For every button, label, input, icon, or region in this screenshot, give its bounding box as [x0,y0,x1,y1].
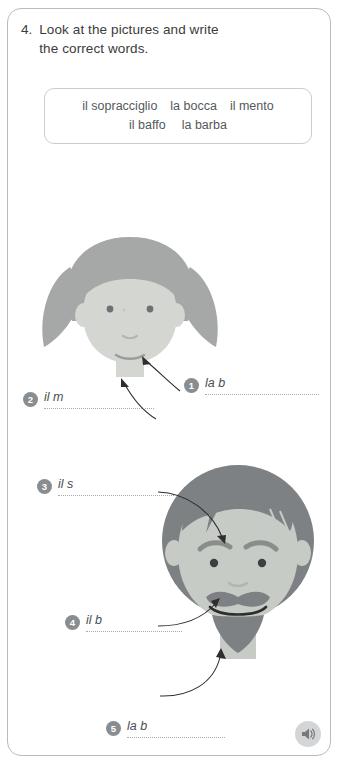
answer-blank-line[interactable] [58,494,176,496]
answer-blank-line[interactable] [86,630,182,632]
exercise-header: 4. Look at the pictures and write the co… [21,20,311,58]
word-bank-word: il mento [230,97,274,116]
answer-badge: 2 [23,392,38,407]
answer-prompt: il b [86,613,182,627]
answer-body: la b [127,719,225,738]
arrow-to-eyebrow [156,487,244,549]
instruction-line-2: the correct words. [39,39,218,58]
answer-body: il m [44,390,154,409]
arrow-to-beard [158,643,230,699]
answer-badge: 5 [106,721,121,736]
answer-badge: 4 [65,615,80,630]
word-bank-row-2: il baffo la barba [129,116,227,135]
answer-body: il s [58,477,176,496]
worksheet-page: 4. Look at the pictures and write the co… [7,8,331,756]
exercise-number: 4. [21,20,32,39]
exercise-instruction: Look at the pictures and write the corre… [39,20,218,58]
answer-body: la b [205,376,319,395]
answer-body: il b [86,613,182,632]
answer-blank-line[interactable] [44,407,154,409]
answer-item-5[interactable]: 5 la b [106,719,225,738]
answer-item-4[interactable]: 4 il b [65,613,182,632]
answer-prompt: la b [127,719,225,733]
instruction-line-1: Look at the pictures and write [39,20,218,39]
answer-badge: 3 [37,479,52,494]
speaker-icon [299,725,317,743]
answer-badge: 1 [184,378,199,393]
word-bank-word: il baffo [129,116,166,135]
answer-prompt: il s [58,477,176,491]
answer-prompt: la b [205,376,319,390]
word-bank-word: la bocca [170,97,217,116]
answer-item-1[interactable]: 1 la b [184,376,319,395]
answer-item-3[interactable]: 3 il s [37,477,176,496]
word-bank-word: il sopracciglio [82,97,157,116]
answer-prompt: il m [44,390,154,404]
audio-play-button[interactable] [295,721,321,747]
word-bank-word: la barba [182,116,227,135]
word-bank-row-1: il sopracciglio la bocca il mento [82,97,273,116]
word-bank: il sopracciglio la bocca il mento il baf… [44,88,312,144]
answer-item-2[interactable]: 2 il m [23,390,154,409]
answer-blank-line[interactable] [127,736,225,738]
answer-blank-line[interactable] [205,393,319,395]
